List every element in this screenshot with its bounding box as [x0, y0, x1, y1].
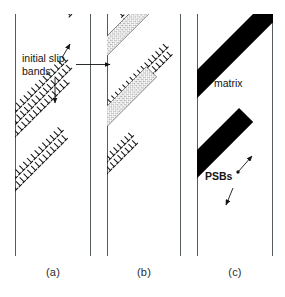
- label-initial-slip-line1: initial slip: [22, 52, 65, 64]
- caption-a-text: (a): [46, 266, 60, 278]
- caption-c: (c): [205, 266, 265, 278]
- label-matrix: matrix: [214, 77, 243, 90]
- panel-a: [15, 14, 91, 256]
- panel-b: [107, 14, 181, 256]
- figure-root: initial slipbands matrix PSBs (a) (b) (c…: [0, 0, 285, 297]
- label-initial-slip-bands: initial slipbands: [22, 52, 65, 77]
- psb-bands-c: [197, 14, 273, 256]
- caption-b: (b): [114, 266, 174, 278]
- slip-bands-a: [15, 14, 91, 256]
- label-psbs-text: PSBs: [205, 170, 232, 182]
- label-initial-slip-line2: bands: [22, 65, 51, 77]
- label-matrix-text: matrix: [214, 77, 243, 89]
- caption-c-text: (c): [228, 266, 241, 278]
- caption-a: (a): [23, 266, 83, 278]
- panel-c: [197, 14, 273, 256]
- label-psbs: PSBs: [205, 170, 232, 183]
- slip-bands-b: [107, 14, 181, 256]
- caption-b-text: (b): [137, 266, 151, 278]
